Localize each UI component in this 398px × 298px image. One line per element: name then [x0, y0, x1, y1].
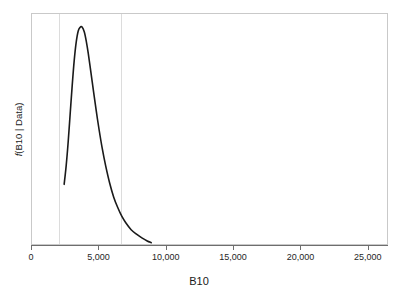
plot-area — [32, 14, 387, 244]
density-curve-path — [64, 27, 151, 243]
x-axis-tick-label: 20,000 — [287, 252, 315, 263]
density-curve-svg — [32, 14, 387, 244]
x-axis-tick — [233, 246, 234, 250]
y-axis-title-italic-f: f — [13, 154, 24, 157]
x-axis-tick-label: 0 — [28, 252, 33, 263]
x-axis-tick — [31, 246, 32, 250]
x-axis-tick — [98, 246, 99, 250]
x-axis-tick-label: 15,000 — [219, 252, 247, 263]
density-chart-figure: 05,00010,00015,00020,00025,000 B10 f(B10… — [0, 0, 398, 298]
plot-frame — [31, 13, 388, 245]
x-axis-tick-label: 10,000 — [152, 252, 180, 263]
x-axis-tick — [368, 246, 369, 250]
y-axis-title: f(B10 | Data) — [13, 70, 24, 190]
x-axis-tick-label: 25,000 — [354, 252, 382, 263]
x-axis-tick-label: 5,000 — [87, 252, 110, 263]
y-axis-title-rest: (B10 | Data) — [13, 103, 24, 154]
x-axis-tick — [166, 246, 167, 250]
x-axis-tick — [300, 246, 301, 250]
x-axis-title: B10 — [0, 275, 398, 288]
x-axis-line — [31, 245, 388, 246]
